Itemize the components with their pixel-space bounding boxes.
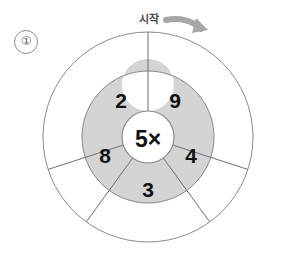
sector-label-left: 8 [99, 144, 111, 167]
worksheet-page: ① 시작 9 4 3 8 2 5× [0, 0, 281, 254]
sector-label-bottom: 3 [142, 178, 154, 201]
start-arrow-icon [166, 18, 208, 33]
number-wheel-diagram: 9 4 3 8 2 5× [0, 0, 281, 254]
sector-label-top-left: 2 [115, 89, 127, 112]
sector-label-top-right: 9 [169, 89, 181, 112]
sector-label-right: 4 [185, 144, 197, 167]
center-operation-label: 5× [135, 126, 161, 152]
